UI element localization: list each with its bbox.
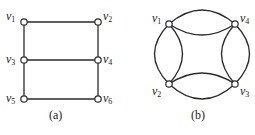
graph-figure: v1 v2 v3 v4 v5 v6 (a) v1 v4 v2 v3 (b) xyxy=(0,0,255,135)
vertex-a-v3 xyxy=(21,57,27,63)
vertex-a-v5 xyxy=(21,96,27,102)
label-b-v4: v4 xyxy=(240,11,249,26)
vertex-b-v2 xyxy=(166,81,172,87)
vertex-a-v4 xyxy=(95,57,101,63)
label-a-v6: v6 xyxy=(103,91,112,106)
vertex-b-v1 xyxy=(166,21,172,27)
edge-v1-v4-outer xyxy=(169,10,235,24)
label-b-v2: v2 xyxy=(152,84,161,99)
vertex-a-v6 xyxy=(95,96,101,102)
label-a-v1: v1 xyxy=(6,9,15,24)
edge-v1-v2-inner xyxy=(169,24,183,84)
edge-v2-v3-inner xyxy=(169,73,235,84)
figure-b: v1 v4 v2 v3 (b) xyxy=(152,10,250,122)
label-a-v5: v5 xyxy=(6,91,15,106)
edge-v4-v3-inner xyxy=(222,24,236,84)
caption-a: (a) xyxy=(49,108,62,122)
vertex-a-v1 xyxy=(21,19,27,25)
edge-v1-v4-inner xyxy=(169,24,235,35)
edge-v1-v2-outer xyxy=(155,24,170,84)
figure-a: v1 v2 v3 v4 v5 v6 (a) xyxy=(6,9,112,122)
edge-v4-v3-outer xyxy=(235,24,250,84)
vertex-b-v4 xyxy=(232,21,238,27)
label-a-v4: v4 xyxy=(103,52,112,67)
edge-v2-v3-outer xyxy=(169,84,235,99)
vertex-b-v3 xyxy=(232,81,238,87)
label-a-v3: v3 xyxy=(6,52,15,67)
label-b-v3: v3 xyxy=(240,84,249,99)
label-b-v1: v1 xyxy=(152,11,161,26)
vertex-a-v2 xyxy=(95,19,101,25)
caption-b: (b) xyxy=(191,108,205,122)
label-a-v2: v2 xyxy=(103,9,112,24)
